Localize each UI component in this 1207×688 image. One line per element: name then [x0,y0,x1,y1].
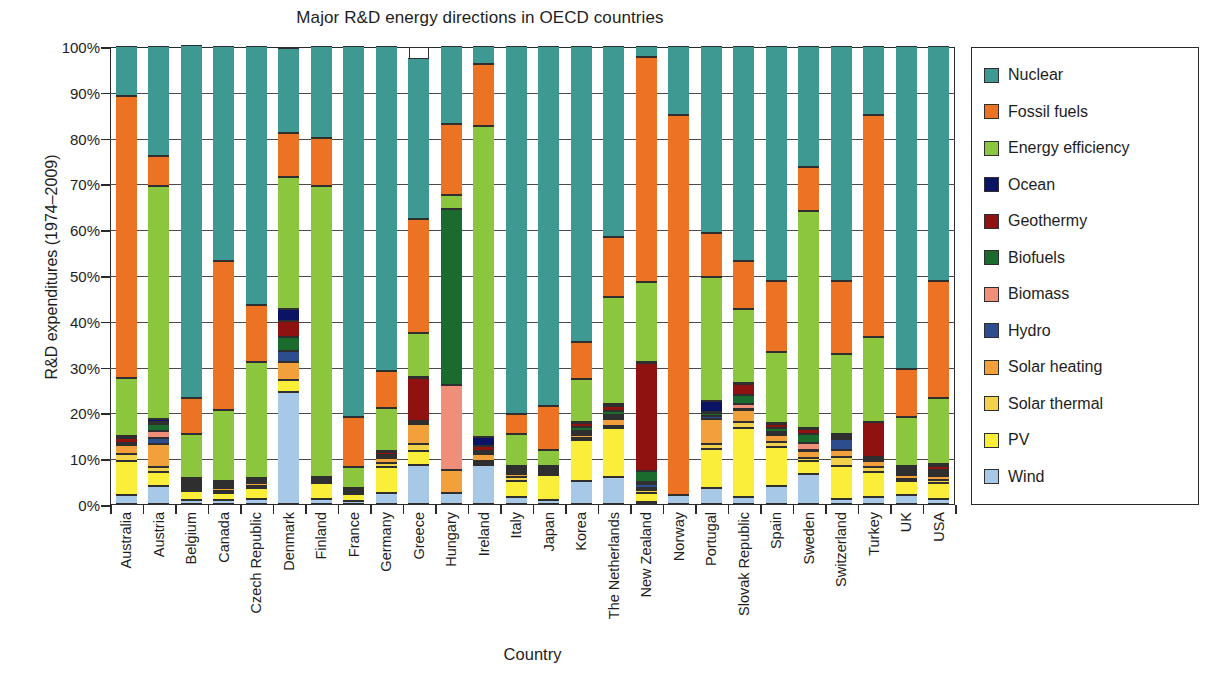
bar-column[interactable] [695,47,728,505]
bar-segment[interactable] [636,363,657,471]
bar-segment[interactable] [701,449,722,488]
stacked-bar[interactable] [896,47,916,505]
bar-segment[interactable] [668,46,689,115]
legend-item-ocean[interactable]: Ocean [984,167,1198,204]
bar-segment[interactable] [831,466,852,498]
bar-segment[interactable] [181,434,202,478]
bar-segment[interactable] [603,415,624,417]
bar-column[interactable] [370,47,403,505]
bar-segment[interactable] [116,46,137,96]
stacked-bar[interactable] [734,47,754,505]
stacked-bar[interactable] [409,47,429,505]
legend-item-wind[interactable]: Wind [984,459,1198,496]
bar-segment[interactable] [408,451,429,465]
stacked-bar[interactable] [506,47,526,505]
bar-segment[interactable] [863,467,884,472]
legend-item-fossil-fuels[interactable]: Fossil fuels [984,94,1198,131]
bar-segment[interactable] [733,422,754,429]
bar-segment[interactable] [278,48,299,133]
legend-item-solar-thermal[interactable]: Solar thermal [984,386,1198,423]
bar-segment[interactable] [571,342,592,379]
bar-column[interactable] [175,47,208,505]
bar-segment[interactable] [831,437,852,439]
legend-item-solar-heating[interactable]: Solar heating [984,349,1198,386]
bar-segment[interactable] [766,352,787,423]
legend-item-biomass[interactable]: Biomass [984,276,1198,313]
stacked-bar[interactable] [344,47,364,505]
bar-segment[interactable] [636,57,657,281]
bar-segment[interactable] [473,64,494,126]
bar-segment[interactable] [376,371,397,408]
bar-segment[interactable] [278,309,299,320]
bar-segment[interactable] [538,46,559,406]
bar-segment[interactable] [798,458,819,460]
bar-segment[interactable] [831,46,852,280]
stacked-bar[interactable] [539,47,559,505]
legend-item-nuclear[interactable]: Nuclear [984,57,1198,94]
stacked-bar[interactable] [474,47,494,505]
bar-column[interactable] [273,47,306,505]
bar-segment[interactable] [538,471,559,473]
bar-segment[interactable] [116,438,137,443]
bar-segment[interactable] [733,404,754,409]
bar-segment[interactable] [636,484,657,488]
bar-segment[interactable] [408,444,429,451]
bar-segment[interactable] [571,46,592,342]
bar-segment[interactable] [701,419,722,444]
bar-segment[interactable] [766,447,787,486]
stacked-bar[interactable] [116,47,136,505]
bar-segment[interactable] [538,450,559,466]
bar-segment[interactable] [148,472,169,486]
stacked-bar[interactable] [149,47,169,505]
bar-segment[interactable] [603,477,624,504]
stacked-bar[interactable] [636,47,656,505]
stacked-bar[interactable] [571,47,591,505]
bar-segment[interactable] [506,481,527,497]
bar-column[interactable] [110,47,143,505]
bar-segment[interactable] [636,490,657,492]
bar-segment[interactable] [571,435,592,437]
bar-column[interactable] [858,47,891,505]
bar-segment[interactable] [636,502,657,504]
bar-segment[interactable] [701,233,722,277]
bar-segment[interactable] [311,481,332,483]
bar-column[interactable] [208,47,241,505]
bar-segment[interactable] [831,457,852,466]
bar-segment[interactable] [473,446,494,451]
bar-segment[interactable] [506,477,527,481]
bar-segment[interactable] [181,398,202,435]
bar-segment[interactable] [246,483,267,485]
bar-segment[interactable] [441,195,462,209]
bar-segment[interactable] [148,419,169,421]
bar-segment[interactable] [896,481,917,495]
bar-segment[interactable] [571,481,592,504]
bar-segment[interactable] [148,422,169,424]
bar-segment[interactable] [473,46,494,64]
bar-segment[interactable] [701,488,722,504]
stacked-bar[interactable] [929,47,949,505]
bar-segment[interactable] [766,486,787,504]
bar-segment[interactable] [311,138,332,186]
bar-segment[interactable] [506,434,527,466]
bar-segment[interactable] [116,378,137,436]
bar-segment[interactable] [148,431,169,438]
bar-column[interactable] [630,47,663,505]
bar-column[interactable] [435,47,468,505]
stacked-bar[interactable] [181,47,201,505]
bar-segment[interactable] [441,46,462,124]
bar-segment[interactable] [896,468,917,470]
bar-segment[interactable] [376,46,397,371]
bar-segment[interactable] [701,401,722,412]
bar-segment[interactable] [571,431,592,433]
bar-column[interactable] [728,47,761,505]
bar-segment[interactable] [928,480,949,484]
bar-segment[interactable] [148,186,169,420]
bar-segment[interactable] [863,115,884,337]
bar-segment[interactable] [766,442,787,447]
bar-segment[interactable] [571,423,592,427]
bar-segment[interactable] [506,497,527,504]
bar-segment[interactable] [116,495,137,504]
bar-segment[interactable] [473,454,494,461]
bar-segment[interactable] [571,379,592,423]
bar-segment[interactable] [928,281,949,398]
